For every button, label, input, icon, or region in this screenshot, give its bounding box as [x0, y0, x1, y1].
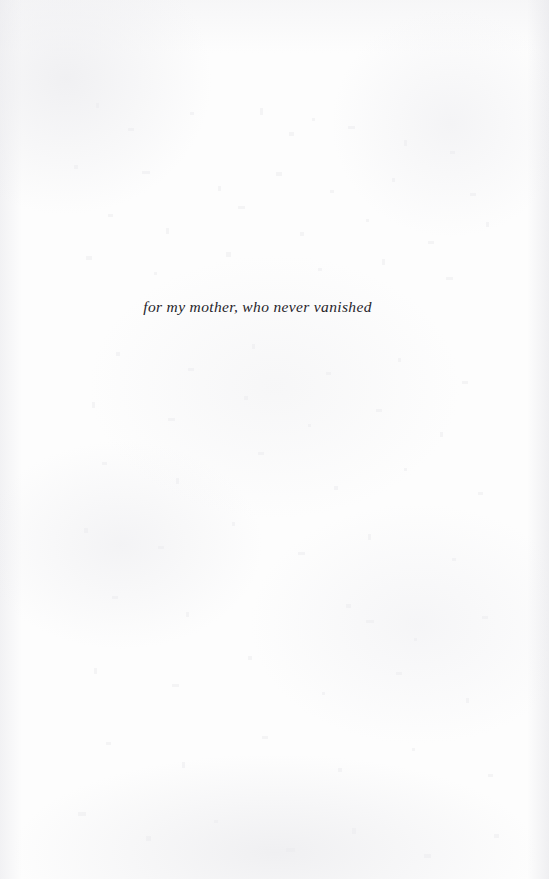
scanned-book-page: for my mother, who never vanished [0, 0, 549, 879]
paper-texture-overlay [0, 0, 549, 879]
scan-speckle-overlay [0, 0, 549, 879]
dedication-text: for my mother, who never vanished [143, 298, 372, 317]
dedication-block: for my mother, who never vanished [0, 298, 549, 317]
